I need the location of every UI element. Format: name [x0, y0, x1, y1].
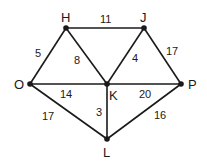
edge-j-k: [107, 28, 144, 84]
node-o: [27, 81, 33, 87]
weight-l-p: 16: [154, 109, 166, 121]
node-label-k: K: [109, 88, 118, 103]
weight-k-p: 20: [139, 88, 151, 100]
weight-o-h: 5: [35, 47, 41, 59]
node-label-o: O: [14, 77, 24, 92]
node-j: [141, 25, 147, 31]
node-k: [104, 81, 110, 87]
weight-h-k: 8: [74, 54, 80, 66]
graph-diagram: H J O K P L 11 5 8 4 17 14 20 17 3 16: [0, 0, 207, 166]
node-p: [178, 81, 184, 87]
node-label-h: H: [61, 10, 70, 25]
weight-o-l: 17: [42, 110, 54, 122]
weight-j-p: 17: [166, 45, 178, 57]
node-label-j: J: [140, 10, 147, 25]
weight-o-k: 14: [60, 88, 72, 100]
node-h: [63, 25, 69, 31]
node-label-p: P: [188, 77, 197, 92]
weight-h-j: 11: [100, 13, 111, 25]
node-l: [104, 136, 110, 142]
edge-h-k: [66, 28, 107, 84]
weight-k-l: 3: [96, 106, 102, 118]
node-label-l: L: [103, 145, 110, 160]
weight-j-k: 4: [132, 52, 138, 64]
